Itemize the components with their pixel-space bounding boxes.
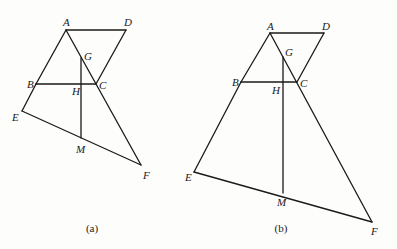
- caption-b: (b): [275, 222, 288, 235]
- point-label-c-b: C: [300, 77, 308, 89]
- geometry-figure: ADGBHCEMF ADGBHCEMF (a) (b): [0, 0, 397, 249]
- point-label-f-b: F: [370, 225, 378, 237]
- point-label-d-a: D: [123, 16, 132, 28]
- segment-ab-a: [36, 30, 66, 84]
- point-label-h-b: H: [271, 84, 281, 96]
- figure-a: ADGBHCEMF: [11, 16, 150, 181]
- point-label-c-a: C: [99, 79, 107, 91]
- segment-af-b: [270, 33, 372, 222]
- point-label-e-a: E: [11, 111, 19, 123]
- point-label-a-b: A: [266, 20, 274, 32]
- point-label-b-b: B: [232, 76, 239, 88]
- figure-b: ADGBHCEMF: [184, 20, 378, 237]
- point-label-m-b: M: [276, 196, 287, 208]
- point-label-g-b: G: [285, 46, 293, 58]
- point-label-g-a: G: [84, 50, 92, 62]
- point-label-a-a: A: [62, 16, 70, 28]
- point-label-f-a: F: [142, 169, 150, 181]
- caption-a: (a): [86, 222, 99, 235]
- point-label-h-a: H: [71, 85, 81, 97]
- segment-dc-b: [297, 33, 324, 82]
- point-label-d-b: D: [321, 20, 330, 32]
- segment-be-b: [194, 82, 241, 172]
- segment-dc-a: [96, 30, 126, 84]
- point-label-e-b: E: [184, 171, 192, 183]
- segment-ab-b: [241, 33, 270, 82]
- point-label-b-a: B: [27, 78, 34, 90]
- point-label-m-a: M: [75, 143, 86, 155]
